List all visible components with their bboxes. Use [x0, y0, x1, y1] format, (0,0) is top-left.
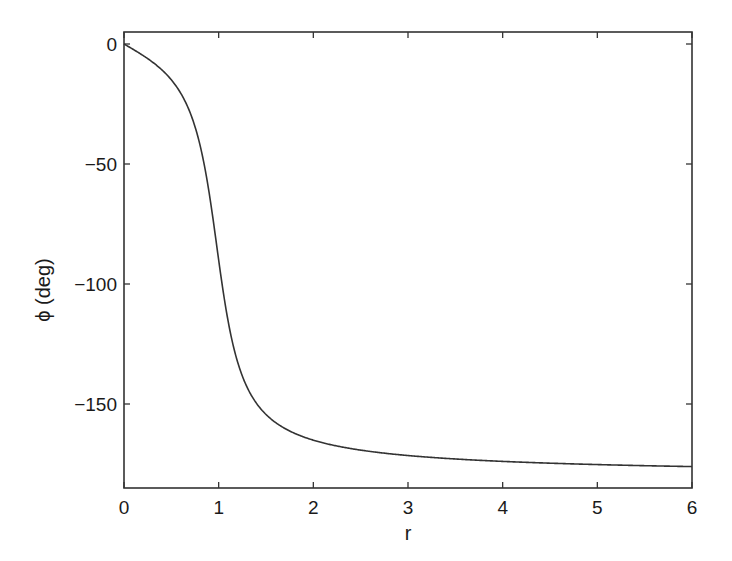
- phase-curve: [124, 44, 692, 467]
- y-tick-label: −100: [74, 274, 117, 295]
- y-tick-label: −150: [74, 394, 117, 415]
- x-tick-label: 6: [687, 497, 698, 518]
- x-axis-ticks: 0123456: [119, 32, 698, 518]
- phase-series-line: [124, 44, 692, 467]
- y-tick-label: −50: [85, 154, 117, 175]
- x-axis-label: r: [405, 522, 412, 544]
- phase-chart: 0123456 0−50−100−150 r ϕ (deg): [0, 0, 732, 561]
- axes-frame: [124, 32, 692, 488]
- x-tick-label: 1: [213, 497, 224, 518]
- x-tick-label: 3: [403, 497, 414, 518]
- y-axis-ticks: 0−50−100−150: [74, 34, 692, 415]
- x-tick-label: 4: [497, 497, 508, 518]
- x-tick-label: 2: [308, 497, 319, 518]
- x-tick-label: 5: [592, 497, 603, 518]
- y-tick-label: 0: [106, 34, 117, 55]
- x-tick-label: 0: [119, 497, 130, 518]
- y-axis-label: ϕ (deg): [32, 258, 54, 321]
